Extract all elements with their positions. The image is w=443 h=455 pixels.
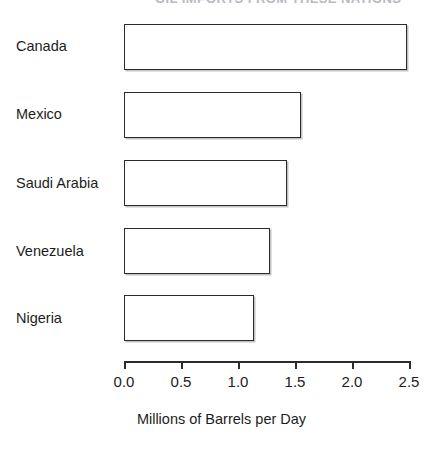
x-axis-tick-label-5: 2.5	[379, 373, 439, 390]
category-label-saudi-arabia: Saudi Arabia	[0, 176, 112, 191]
bar-canada	[124, 24, 407, 70]
x-axis-tick-label-4: 2.0	[322, 373, 382, 390]
category-label-venezuela: Venezuela	[0, 244, 112, 259]
bar-nigeria	[124, 295, 254, 341]
x-axis-tick-5	[409, 361, 411, 369]
x-axis-tick-label-1: 0.5	[151, 373, 211, 390]
x-axis-tick-0	[124, 361, 126, 369]
x-axis-tick-3	[295, 361, 297, 369]
category-label-canada: Canada	[0, 39, 112, 54]
x-axis-tick-1	[181, 361, 183, 369]
category-label-nigeria: Nigeria	[0, 311, 112, 326]
category-label-mexico: Mexico	[0, 107, 112, 122]
horizontal-bar-chart: OIL IMPORTS FROM THESE NATIONS Canada Me…	[0, 0, 443, 455]
cropped-chart-title: OIL IMPORTS FROM THESE NATIONS	[155, 0, 443, 3]
x-axis-tick-label-2: 1.0	[208, 373, 268, 390]
bar-venezuela	[124, 228, 270, 274]
x-axis-tick-label-0: 0.0	[94, 373, 154, 390]
x-axis-tick-4	[352, 361, 354, 369]
x-axis-title: Millions of Barrels per Day	[0, 411, 443, 428]
x-axis-tick-label-3: 1.5	[265, 373, 325, 390]
bar-mexico	[124, 92, 301, 138]
x-axis-tick-2	[238, 361, 240, 369]
x-axis-line	[124, 361, 410, 363]
bar-saudi-arabia	[124, 160, 287, 206]
